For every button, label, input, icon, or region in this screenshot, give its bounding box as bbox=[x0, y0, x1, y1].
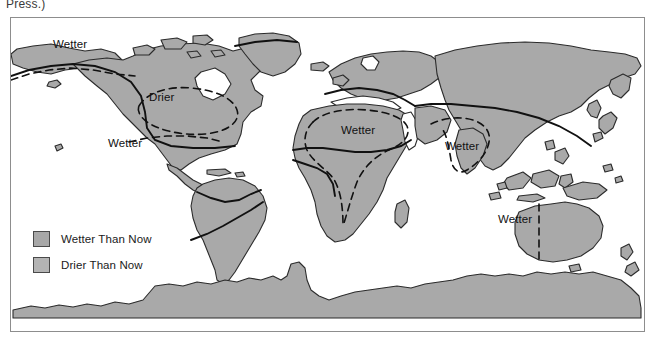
pacific-island-a bbox=[603, 164, 613, 172]
map-label-wetter-north-pacific: Wetter bbox=[53, 38, 87, 50]
caption-tail-text: Press.) bbox=[6, 0, 45, 11]
map-label-wetter-india: Wetter bbox=[445, 140, 479, 152]
legend-swatch-drier bbox=[33, 257, 50, 273]
island-sw-a bbox=[497, 182, 507, 190]
legend-swatch-wetter bbox=[33, 231, 50, 247]
legend-row-wetter: Wetter Than Now bbox=[33, 226, 183, 252]
tasmania-landmass bbox=[569, 264, 581, 272]
map-label-wetter-central-america: Wetter bbox=[108, 137, 142, 149]
legend-row-drier: Drier Than Now bbox=[33, 252, 183, 278]
map-label-wetter-north-africa: Wetter bbox=[341, 124, 375, 136]
taiwan-landmass bbox=[545, 140, 555, 150]
map-label-wetter-australia: Wetter bbox=[498, 213, 532, 225]
legend-label-wetter: Wetter Than Now bbox=[61, 233, 152, 245]
map-legend: Wetter Than Now Drier Than Now bbox=[33, 226, 183, 278]
paleoclimate-world-map: Wetter Drier Wetter Wetter Wetter Wetter… bbox=[10, 17, 645, 332]
legend-label-drier: Drier Than Now bbox=[61, 259, 143, 271]
caribbean-island-b bbox=[235, 172, 245, 177]
island-sw-b bbox=[489, 192, 501, 200]
map-label-drier-north-america: Drier bbox=[149, 91, 174, 103]
world-map-svg bbox=[11, 18, 644, 331]
